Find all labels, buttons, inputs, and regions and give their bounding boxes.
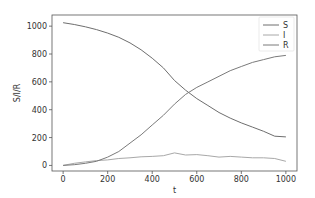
y-tick-label: 1000 bbox=[27, 22, 47, 31]
x-tick-label: 1000 bbox=[276, 175, 296, 184]
plot-area: 0200400600800100002004006008001000 bbox=[27, 15, 297, 184]
y-tick-label: 200 bbox=[32, 134, 47, 143]
legend-label-i: I bbox=[283, 31, 285, 40]
series-line-s bbox=[63, 23, 286, 137]
series-line-r bbox=[63, 55, 286, 165]
legend: SIR bbox=[259, 17, 294, 51]
series-line-i bbox=[63, 153, 286, 166]
y-tick-label: 600 bbox=[32, 78, 47, 87]
y-tick-label: 0 bbox=[42, 161, 47, 170]
y-axis-label: S/I/R bbox=[13, 83, 22, 102]
sir-line-chart: 0200400600800100002004006008001000 SIR t… bbox=[0, 0, 315, 198]
x-tick-label: 400 bbox=[145, 175, 160, 184]
y-tick-label: 800 bbox=[32, 50, 47, 59]
x-tick-label: 600 bbox=[189, 175, 204, 184]
legend-label-r: R bbox=[283, 41, 289, 50]
legend-label-s: S bbox=[283, 21, 288, 30]
series-layer bbox=[63, 23, 286, 166]
x-tick-label: 200 bbox=[100, 175, 115, 184]
x-axis-label: t bbox=[173, 186, 176, 195]
x-tick-label: 800 bbox=[234, 175, 249, 184]
x-tick-label: 0 bbox=[61, 175, 66, 184]
y-tick-label: 400 bbox=[32, 106, 47, 115]
legend-box bbox=[259, 17, 294, 51]
